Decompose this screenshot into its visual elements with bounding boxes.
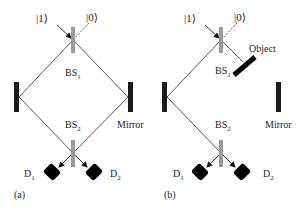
beam-splitter-1	[219, 27, 223, 53]
input-label-zero: |0⟩	[234, 11, 246, 23]
panel-caption-a: (a)	[14, 189, 25, 201]
object-blocker	[234, 57, 255, 75]
bs2-label: BS2	[65, 119, 81, 133]
input-beam-zero	[222, 23, 237, 39]
detector-d1-icon	[191, 163, 209, 181]
detector-d2-label: D2	[263, 168, 274, 182]
mirror-label: Mirror	[265, 119, 292, 130]
detector-d2-label: D2	[110, 168, 121, 182]
mirror-right	[276, 82, 281, 112]
beam-path	[73, 40, 128, 97]
bs1-label: BS1	[215, 65, 231, 79]
input-beam-one	[205, 25, 219, 38]
output-beam-d1	[59, 153, 73, 167]
output-beam-d2	[221, 153, 235, 167]
beam-splitter-2	[71, 140, 75, 167]
beam-path	[167, 97, 221, 153]
bs2-label: BS2	[215, 119, 231, 133]
object-label: Object	[249, 43, 276, 54]
beam-path-blocked	[221, 40, 243, 62]
mirror-left	[162, 82, 167, 112]
input-label-zero: |0⟩	[86, 11, 98, 23]
panel-a: |1⟩ |0⟩ BS1 BS2 Mirror D1 D2 (a)	[14, 11, 144, 201]
beam-splitter-1	[71, 27, 75, 53]
panel-caption-b: (b)	[164, 189, 176, 201]
detector-d1-icon	[43, 163, 61, 181]
beam-splitter-2	[219, 140, 223, 167]
detector-d1-label: D1	[173, 168, 184, 182]
output-beam-d2	[73, 153, 87, 167]
input-beam-zero	[74, 23, 89, 39]
bs1-label: BS1	[65, 67, 81, 81]
mirror-left	[14, 82, 19, 112]
input-beam-one	[57, 25, 71, 38]
panel-b: |1⟩ |0⟩ BS1 Object BS2 Mirror D1 D2 (b)	[162, 11, 292, 201]
output-beam-d1	[207, 153, 221, 167]
interferometer-diagram: |1⟩ |0⟩ BS1 BS2 Mirror D1 D2 (a) |1⟩ |0⟩	[0, 0, 304, 209]
mirror-label: Mirror	[117, 119, 144, 130]
beam-path	[167, 40, 221, 97]
detector-d2-icon	[233, 163, 251, 181]
input-label-one: |1⟩	[184, 12, 196, 24]
detector-d2-icon	[85, 163, 103, 181]
detector-d1-label: D1	[24, 168, 35, 182]
mirror-right	[128, 82, 133, 112]
input-label-one: |1⟩	[36, 12, 48, 24]
